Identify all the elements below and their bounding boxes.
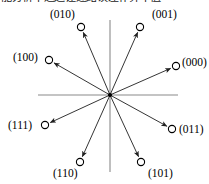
vector-arrow-100 xyxy=(54,63,110,95)
label-000: (000) xyxy=(182,56,207,68)
label-111: (111) xyxy=(8,119,32,131)
label-001: (001) xyxy=(152,8,177,20)
vector-arrow-101 xyxy=(110,95,139,157)
label-010: (010) xyxy=(50,8,75,20)
label-100: (100) xyxy=(13,51,38,63)
constellation-diagram xyxy=(0,0,209,184)
vector-arrow-110 xyxy=(82,95,110,157)
label-011: (011) xyxy=(179,123,203,135)
vector-arrow-000 xyxy=(110,68,171,95)
vector-arrow-011 xyxy=(110,95,167,126)
marker-001 xyxy=(136,23,143,30)
origin-dot xyxy=(108,93,112,97)
marker-010 xyxy=(77,23,84,30)
marker-000 xyxy=(172,62,179,69)
label-101: (101) xyxy=(148,167,173,179)
marker-101 xyxy=(137,158,144,165)
vector-arrow-001 xyxy=(110,32,138,95)
vector-arrow-010 xyxy=(83,32,110,95)
marker-111 xyxy=(41,121,48,128)
marker-100 xyxy=(45,56,52,63)
label-110: (110) xyxy=(53,167,77,179)
marker-110 xyxy=(76,158,83,165)
marker-011 xyxy=(168,125,175,132)
vector-arrow-111 xyxy=(50,95,110,123)
diagram-screenshot: 能分析干通过让述路误差补算干值 (010)(001)(100)(000)(111… xyxy=(0,0,209,184)
